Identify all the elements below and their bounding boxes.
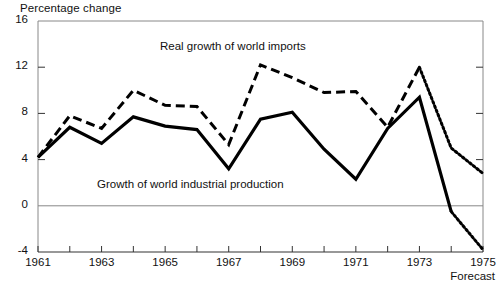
x-axis-tick-label: 1973 [398,256,440,268]
series-forecast-production [451,212,483,250]
series-line-imports [38,65,419,157]
y-axis-title: Percentage change [20,2,121,14]
plot-frame [38,21,483,252]
y-axis-tick-label: 12 [2,59,28,71]
x-axis-tick-label: 1963 [81,256,123,268]
y-axis-tick-label: 0 [2,198,28,210]
y-axis-tick-label: 16 [2,13,28,25]
series-forecast-imports [419,67,483,173]
x-axis-tick-label: 1969 [271,256,313,268]
x-axis-tick-label: 1975 [462,256,499,268]
x-axis-tick-label: 1971 [335,256,377,268]
series-label-imports: Real growth of world imports [160,40,306,52]
series-line-production [38,97,451,211]
y-axis-tick-label: 8 [2,105,28,117]
x-axis-tick-label: 1965 [144,256,186,268]
y-axis-tick-label: 4 [2,152,28,164]
y-axis-tick-label: -4 [2,244,28,256]
series-label-production: Growth of world industrial production [97,178,284,190]
forecast-annotation: Forecast [450,270,495,282]
x-axis-tick-label: 1967 [208,256,250,268]
x-axis-tick-label: 1961 [17,256,59,268]
chart-container: Percentage change Real growth of world i… [0,0,499,288]
